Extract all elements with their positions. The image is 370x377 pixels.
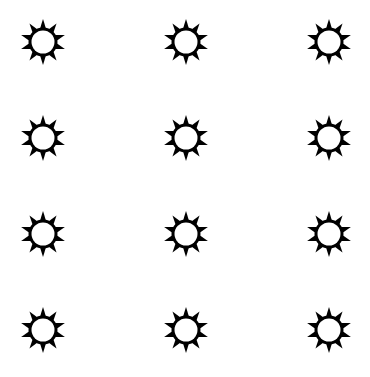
sun-icon	[305, 210, 353, 258]
sun-icon	[305, 18, 353, 66]
sun-icon	[162, 306, 210, 354]
sun-icon	[19, 306, 67, 354]
sun-icon	[305, 306, 353, 354]
sun-icon	[19, 114, 67, 162]
sun-icon	[162, 18, 210, 66]
sun-icon	[19, 18, 67, 66]
sun-icon	[162, 114, 210, 162]
sun-icon	[19, 210, 67, 258]
sun-icon-grid	[0, 0, 370, 377]
sun-icon	[305, 114, 353, 162]
sun-icon	[162, 210, 210, 258]
